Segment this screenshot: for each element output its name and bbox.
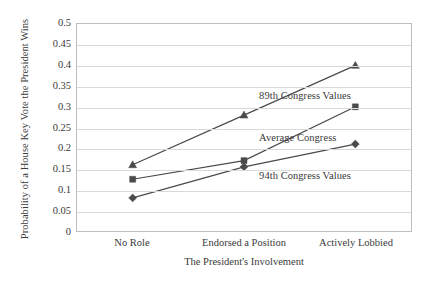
- x-axis-tick-labels: No RoleEndorsed a PositionActively Lobbi…: [76, 236, 412, 252]
- plot-area: [76, 23, 412, 232]
- y-tick-label: 0.05: [24, 206, 71, 216]
- y-tick-label: 0.3: [24, 102, 71, 112]
- x-tick-label: Actively Lobbied: [319, 236, 393, 250]
- x-axis-title: The President's Involvement: [76, 255, 412, 269]
- y-tick-label: 0.45: [24, 39, 71, 49]
- y-tick-label: 0.1: [24, 185, 71, 195]
- x-tick-label: No Role: [114, 236, 149, 250]
- x-tick-label: Endorsed a Position: [202, 236, 286, 250]
- data-point-marker: [351, 140, 359, 148]
- y-tick-label: 0.2: [24, 143, 71, 153]
- gridline: [77, 212, 411, 213]
- gridline: [77, 108, 411, 109]
- series-annotation-label: 89th Congress Values: [259, 90, 351, 102]
- data-point-marker: [351, 61, 359, 68]
- y-tick-label: 0.5: [24, 18, 71, 28]
- y-tick-label: 0.15: [24, 164, 71, 174]
- line-chart: Probability of a House Key Vote the Pres…: [0, 0, 427, 291]
- y-tick-label: 0.4: [24, 60, 71, 70]
- series-annotation-label: Average Congress: [259, 132, 336, 144]
- gridline: [77, 170, 411, 171]
- gridline: [77, 87, 411, 88]
- series-annotation-label: 94th Congress Values: [259, 170, 351, 182]
- gridline: [77, 149, 411, 150]
- plot-series-layer: [77, 24, 411, 231]
- gridline: [77, 191, 411, 192]
- y-tick-label: 0.35: [24, 81, 71, 91]
- data-point-marker: [130, 176, 136, 182]
- gridline: [77, 45, 411, 46]
- data-point-marker: [240, 111, 248, 118]
- gridline: [77, 66, 411, 67]
- series-1: [129, 61, 360, 167]
- y-axis-tick-labels: 00.050.10.150.20.250.30.350.40.450.5: [24, 0, 71, 291]
- y-tick-label: 0.25: [24, 123, 71, 133]
- data-point-marker: [129, 161, 137, 168]
- gridline: [77, 129, 411, 130]
- y-tick-label: 0: [24, 227, 71, 237]
- data-point-marker: [129, 194, 137, 202]
